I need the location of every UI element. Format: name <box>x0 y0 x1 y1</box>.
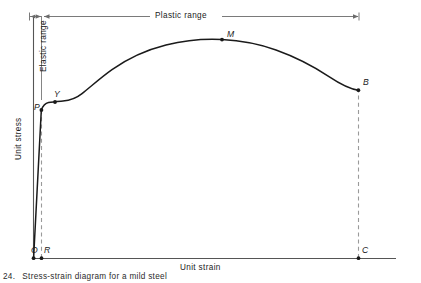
point-label-R: R <box>44 246 50 255</box>
point-marker-O <box>32 256 36 260</box>
point-label-O: O <box>31 246 38 255</box>
point-marker-B <box>357 88 361 92</box>
point-label-B: B <box>363 78 369 87</box>
x-axis-label: Unit strain <box>180 264 221 272</box>
point-marker-P <box>40 108 44 112</box>
chart-canvas <box>0 0 421 283</box>
point-label-P: P <box>34 103 40 112</box>
elastic-range-label: Elastic range <box>40 20 48 72</box>
stress-strain-figure: Plastic range Elastic range Unit stress … <box>0 0 421 283</box>
point-marker-R <box>40 256 44 260</box>
point-label-C: C <box>362 246 368 255</box>
plastic-range-label: Plastic range <box>155 12 207 20</box>
y-axis-label: Unit stress <box>15 117 23 160</box>
figure-number: 24. <box>3 272 15 281</box>
point-marker-C <box>357 256 361 260</box>
point-marker-Y <box>53 100 57 104</box>
point-label-M: M <box>227 30 234 39</box>
figure-caption-text: Stress-strain diagram for a mild steel <box>22 272 167 281</box>
point-label-Y: Y <box>54 90 60 99</box>
point-marker-M <box>220 38 224 42</box>
figure-caption: 24.Stress-strain diagram for a mild stee… <box>3 272 167 281</box>
stress-strain-curve <box>34 39 359 258</box>
